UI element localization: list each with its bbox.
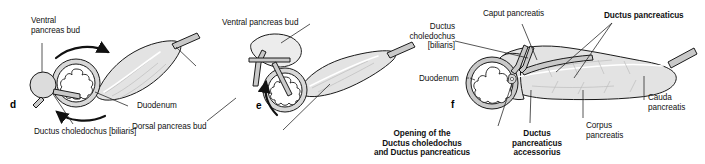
label-ductus-pancreaticus-accessorius: Ductus pancreaticus accessorius	[500, 129, 574, 158]
label-ductus-choledochus-d: Ductus choledochus [biliaris]	[34, 127, 136, 137]
label-ductus-choledochus-f: Ductus choledochus [biliaris]	[395, 22, 455, 51]
panel-e-artwork	[249, 34, 415, 115]
label-cauda-pancreatis: Cauda pancreatis	[648, 93, 685, 112]
label-ventral-pancreas-bud-d: Ventral pancreas bud	[31, 16, 80, 35]
panel-letter-e: e	[256, 100, 262, 111]
label-ductus-pancreaticus: Ductus pancreaticus	[604, 11, 684, 21]
label-opening-of-ducts: Opening of the Ductus choledochus and Du…	[348, 129, 496, 158]
label-corpus-pancreatis: Corpus pancreatis	[586, 121, 623, 140]
pancreas-development-figure: .out{fill:none;stroke:#1a1a1a;stroke-wid…	[0, 0, 705, 164]
label-caput-pancreatis: Caput pancreatis	[483, 9, 544, 19]
label-duodenum-f: Duodenum	[419, 74, 459, 84]
panel-letter-f: f	[451, 99, 454, 110]
label-dorsal-pancreas-bud-e: Dorsal pancreas bud	[132, 122, 207, 132]
panel-letter-d: d	[10, 99, 16, 110]
label-duodenum-d: Duodenum	[137, 101, 177, 111]
label-ventral-pancreas-bud-e: Ventral pancreas bud	[222, 18, 298, 28]
